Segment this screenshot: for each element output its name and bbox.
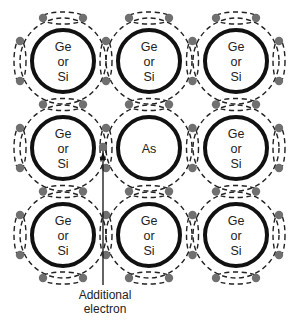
electron-dot [252,187,260,195]
atoms: GeorSiGeorSiGeorSiGeorSiAsGeorSiGeorSiGe… [32,30,267,266]
electron-dot [79,187,87,195]
electron-dot [275,124,283,132]
atom-label: or [230,229,241,243]
electron-dot [79,274,87,282]
bond-ellipse [41,12,85,24]
atom-label: Si [230,157,241,171]
bond-ellipse [127,186,171,198]
electron-dot [188,77,196,85]
bond-ellipse [214,186,258,198]
bond-ellipse [14,213,26,257]
electron-dot [39,14,47,22]
atom-label: Si [57,70,68,84]
electron-dot [16,211,24,219]
electron-dot [16,37,24,45]
bond-ellipse [41,272,85,284]
electron-dot [252,100,260,108]
caption-line-2: electron [60,302,150,316]
electron-dot [165,100,173,108]
electron-dot [16,164,24,172]
atom-label: or [230,55,241,69]
electron-dot [275,77,283,85]
atom-label: Ge [228,214,245,228]
atom-label: or [230,142,241,156]
electron-dot [188,164,196,172]
bond-ellipse [214,99,258,111]
atom-label: Ge [141,40,158,54]
additional-electron-label: Additional electron [60,288,150,316]
electron-dot [125,187,133,195]
electron-dot [165,14,173,22]
electron-dot [188,37,196,45]
atom-label: Ge [228,127,245,141]
electron-dot [212,274,220,282]
atom-label: Ge [55,127,72,141]
lattice-diagram: GeorSiGeorSiGeorSiGeorSiAsGeorSiGeorSiGe… [0,0,290,323]
electron-dot [165,187,173,195]
bond-ellipse [41,99,85,111]
electron-dot [275,164,283,172]
electron-dot [102,37,110,45]
electron-dot [125,274,133,282]
electron-dot [252,14,260,22]
atom-label: Si [143,70,154,84]
electron-dot [125,14,133,22]
electron-dot [125,100,133,108]
bond-ellipse [127,99,171,111]
electron-dot [39,187,47,195]
atom-label: Ge [141,214,158,228]
electron-dot [165,274,173,282]
atom-label: Ge [55,214,72,228]
atom-label: Ge [55,40,72,54]
electron-dot [252,274,260,282]
electron-dot [275,37,283,45]
bond-ellipse [14,39,26,83]
caption-line-1: Additional [60,288,150,302]
electron-dot [275,211,283,219]
electron-dot [275,251,283,259]
bond-ellipse [214,12,258,24]
bond-ellipse [41,186,85,198]
electron-dot [212,187,220,195]
electron-dot [39,100,47,108]
electron-dot [16,251,24,259]
electron-dot [102,124,110,132]
additional-electron-dot [99,143,107,151]
atom-label: Ge [228,40,245,54]
electron-dot [16,124,24,132]
electron-dot [102,77,110,85]
atom-label: or [57,229,68,243]
atom-label: Si [57,244,68,258]
atom-label: or [143,229,154,243]
electron-dot [188,211,196,219]
electron-dot [79,100,87,108]
bond-ellipse [127,12,171,24]
bond-ellipse [214,272,258,284]
electron-dot [188,251,196,259]
electron-dot [79,14,87,22]
atom-label: Si [57,157,68,171]
electron-dot [39,274,47,282]
atom-label: or [57,55,68,69]
atom-label: As [142,142,157,156]
electron-dot [16,77,24,85]
electron-dot [212,14,220,22]
bond-ellipse [127,272,171,284]
bond-ellipse [14,126,26,170]
atom-label: or [143,55,154,69]
atom-label: Si [230,70,241,84]
electron-dot [188,124,196,132]
atom-label: Si [230,244,241,258]
atom-label: or [57,142,68,156]
electron-dot [212,100,220,108]
atom-label: Si [143,244,154,258]
arrowhead-icon [100,152,106,160]
